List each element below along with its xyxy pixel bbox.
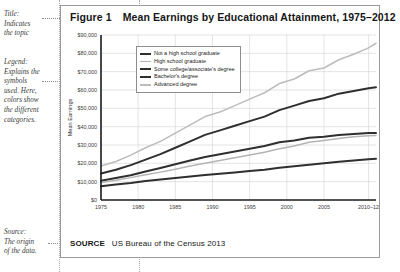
svg-text:1985: 1985 <box>169 204 181 210</box>
svg-text:1975: 1975 <box>95 204 107 210</box>
annotation-title-note: Title: Indicates the topic <box>4 10 56 39</box>
svg-text:$80,000: $80,000 <box>78 50 98 56</box>
figure-title: Figure 1Mean Earnings by Educational Att… <box>70 11 396 23</box>
svg-text:2000: 2000 <box>281 204 293 210</box>
svg-text:1980: 1980 <box>132 204 144 210</box>
chart-y-axis-title: Mean Earnings <box>67 98 73 136</box>
source-line: SOURCEUS Bureau of the Census 2013 <box>70 239 225 248</box>
legend-item-label: Some college/associate's degree <box>154 66 235 73</box>
legend-item-label: Bachelor's degree <box>154 73 198 80</box>
chart-legend: Not a high school graduate High school g… <box>136 46 241 93</box>
svg-text:2010–12: 2010–12 <box>358 204 379 210</box>
svg-text:$90,000: $90,000 <box>78 32 98 38</box>
legend-swatch-icon <box>140 68 151 70</box>
legend-item-label: High school graduate <box>154 58 206 65</box>
legend-swatch-icon <box>140 61 151 63</box>
legend-swatch-icon <box>140 53 151 55</box>
legend-item: Some college/associate's degree <box>140 66 236 73</box>
legend-item: Not a high school graduate <box>140 50 236 57</box>
svg-text:$30,000: $30,000 <box>78 142 98 148</box>
svg-text:$40,000: $40,000 <box>78 124 98 130</box>
legend-item-label: Advanced degree <box>154 81 197 88</box>
chart-y-tick-labels: $0$10,000$20,000$30,000$40,000$50,000$60… <box>78 32 98 203</box>
legend-item: High school graduate <box>140 58 236 65</box>
svg-text:$60,000: $60,000 <box>78 87 98 93</box>
source-label: SOURCE <box>70 239 105 248</box>
svg-text:2005: 2005 <box>318 204 330 210</box>
legend-item: Bachelor's degree <box>140 73 236 80</box>
svg-text:$10,000: $10,000 <box>78 179 98 185</box>
annotation-legend-note: Legend: Explains the symbols used. Here,… <box>4 58 56 125</box>
svg-text:1990: 1990 <box>206 204 218 210</box>
svg-text:1995: 1995 <box>244 204 256 210</box>
chart-x-tick-labels: 19751980198519901995200020052010–12 <box>95 204 379 210</box>
legend-item: Advanced degree <box>140 81 236 88</box>
svg-text:$70,000: $70,000 <box>78 69 98 75</box>
svg-text:$20,000: $20,000 <box>78 160 98 166</box>
figure-title-text: Mean Earnings by Educational Attainment,… <box>123 11 396 23</box>
legend-swatch-icon <box>140 84 151 86</box>
source-text: US Bureau of the Census 2013 <box>112 239 226 248</box>
svg-text:$0: $0 <box>91 197 97 203</box>
legend-swatch-icon <box>140 76 151 78</box>
figure-number: Figure 1 <box>70 11 112 23</box>
legend-item-label: Not a high school graduate <box>154 50 220 57</box>
svg-text:$50,000: $50,000 <box>78 105 98 111</box>
